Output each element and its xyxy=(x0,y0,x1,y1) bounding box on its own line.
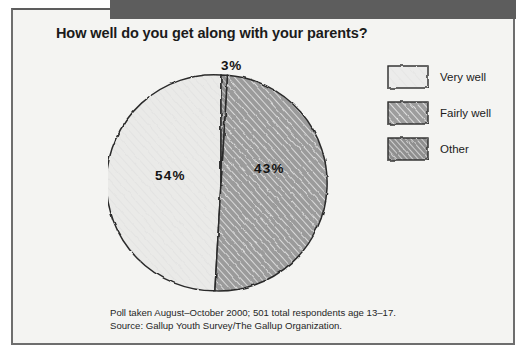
legend: Very well Fairly well Other xyxy=(386,60,506,168)
diagonal-hatch-swatch xyxy=(386,100,430,126)
header-ribbon xyxy=(110,0,516,19)
footnotes: Poll taken August–October 2000; 501 tota… xyxy=(110,306,440,332)
legend-item-very-well: Very well xyxy=(386,60,506,94)
footnote-poll-details: Poll taken August–October 2000; 501 tota… xyxy=(110,306,440,319)
pie-svg xyxy=(108,72,334,292)
legend-item-other: Other xyxy=(386,132,506,166)
legend-label-fairly-well: Fairly well xyxy=(440,107,491,119)
chart-figure: How well do you get along with your pare… xyxy=(0,0,532,363)
pie-slice-fairly-well xyxy=(215,75,327,291)
pie-chart xyxy=(108,72,334,292)
footnote-source: Source: Gallup Youth Survey/The Gallup O… xyxy=(110,319,440,332)
light-solid-swatch xyxy=(386,64,430,90)
legend-label-other: Other xyxy=(440,143,469,155)
pie-label-other: 3% xyxy=(221,58,242,73)
legend-item-fairly-well: Fairly well xyxy=(386,96,506,130)
pie-label-very-well: 54% xyxy=(155,168,186,183)
pie-label-fairly-well: 43% xyxy=(254,161,285,176)
page-title: How well do you get along with your pare… xyxy=(56,25,367,41)
diagonal-hatch-dense-swatch xyxy=(386,136,430,162)
legend-label-very-well: Very well xyxy=(440,71,486,83)
